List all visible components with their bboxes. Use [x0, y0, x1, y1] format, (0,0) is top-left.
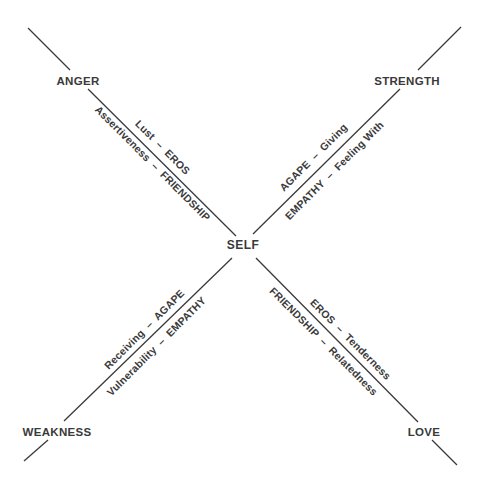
- line-weakness-outer: [24, 440, 48, 461]
- line-strength-outer: [418, 27, 461, 70]
- center-label-self: SELF: [227, 238, 260, 252]
- pole-label-love: LOVE: [408, 426, 441, 438]
- line-self-love: [256, 258, 418, 422]
- line-strength-self: [253, 89, 400, 234]
- pole-label-strength: STRENGTH: [374, 75, 440, 87]
- self-axes-diagram: ANGERSTRENGTHWEAKNESSLOVE Lust – EROSAss…: [0, 0, 485, 498]
- pole-label-anger: ANGER: [56, 75, 99, 87]
- axis-label-assertiveness-friendship: Assertiveness – FRIENDSHIP: [93, 103, 213, 223]
- line-self-weakness: [64, 258, 232, 421]
- line-love-outer: [432, 440, 457, 465]
- line-anger-outer: [28, 28, 70, 70]
- pole-label-weakness: WEAKNESS: [23, 426, 92, 438]
- axis-label-friendship-relatedness: FRIENDSHIP – Relatedness: [267, 285, 380, 398]
